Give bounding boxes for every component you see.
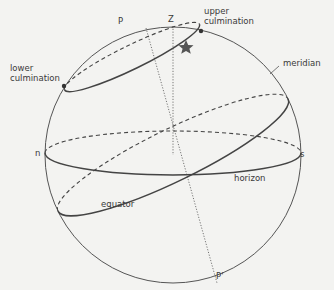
label-lower-culmination-1: lower <box>10 63 34 73</box>
label-s: s <box>300 149 305 159</box>
label-equator: equator <box>101 199 135 209</box>
equator-back <box>47 76 288 212</box>
label-P-prime: P' <box>216 271 223 281</box>
label-horizon: horizon <box>234 173 266 183</box>
label-P: P <box>118 16 123 26</box>
polar-axis <box>146 28 217 283</box>
label-Z: Z <box>168 14 174 24</box>
lower-culmination-point <box>62 84 66 88</box>
star-icon <box>179 40 194 54</box>
label-meridian: meridian <box>283 58 321 68</box>
label-n: n <box>35 148 40 158</box>
meridian-pointer <box>270 66 279 74</box>
star-path-back <box>59 13 199 90</box>
star-path-front <box>65 24 205 101</box>
horizon-front <box>45 153 301 175</box>
label-upper-culmination-2: culmination <box>204 16 254 26</box>
equator-front <box>58 99 299 235</box>
label-lower-culmination-2: culmination <box>10 73 60 83</box>
label-upper-culmination-1: upper <box>204 6 229 16</box>
celestial-sphere-diagram: P Z upper culmination lower culmination … <box>0 0 334 290</box>
upper-culmination-point <box>199 29 203 33</box>
